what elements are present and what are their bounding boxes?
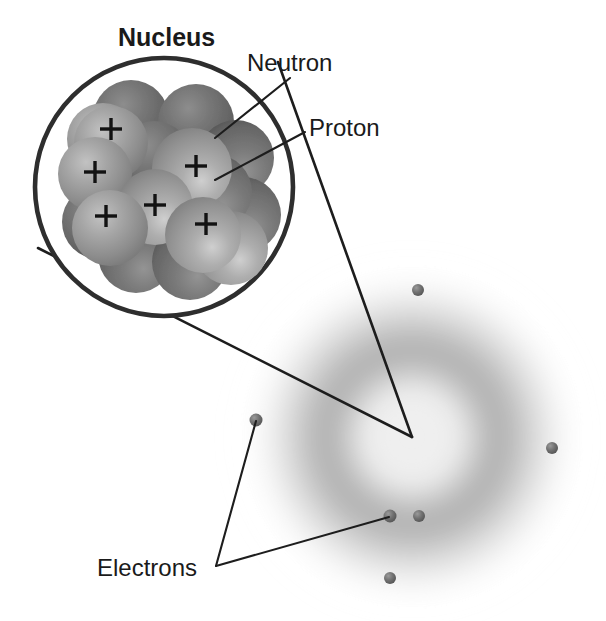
atom-diagram-figure: Nucleus Neutron Proton Electrons: [0, 0, 606, 621]
label-neutron: Neutron: [247, 49, 332, 76]
atom-diagram-canvas: Nucleus Neutron Proton Electrons: [0, 0, 606, 621]
proton-sphere: [72, 190, 148, 266]
electron-dot-top: [412, 284, 424, 296]
label-proton: Proton: [309, 114, 380, 141]
proton-sphere: [165, 197, 241, 273]
electrons-leader-line-left: [216, 421, 256, 566]
electron-dot-bottom-left: [384, 510, 397, 523]
electron-dot-bottom-mid: [413, 510, 425, 522]
label-nucleus: Nucleus: [118, 23, 215, 51]
electron-dot-right: [546, 442, 558, 454]
electron-dot-bottom: [384, 572, 396, 584]
label-electrons: Electrons: [97, 554, 197, 581]
